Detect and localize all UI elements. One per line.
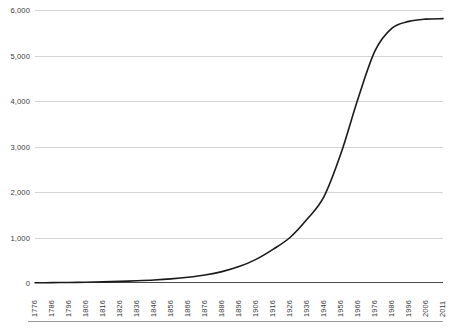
- x-tick-label: 1856: [166, 300, 175, 317]
- y-tick-label: 1,000: [10, 233, 30, 242]
- x-tick-label: 1966: [353, 300, 362, 317]
- x-tick-label: 1936: [302, 300, 311, 317]
- x-tick-label: 1916: [268, 300, 277, 317]
- x-tick-label: 2011: [438, 301, 447, 317]
- x-tick-label: 1836: [132, 300, 141, 317]
- x-tick-label: 1906: [251, 300, 260, 317]
- x-tick-label: 2006: [421, 300, 430, 317]
- y-tick-label: 0: [26, 279, 30, 288]
- x-tick-label: 1866: [183, 300, 192, 317]
- plot-area: [35, 10, 443, 283]
- x-tick-label: 1876: [200, 300, 209, 317]
- x-tick-label: 1976: [370, 300, 379, 317]
- chart-bottom-border: [28, 321, 443, 322]
- x-tick-label: 1796: [64, 300, 73, 317]
- y-axis-labels: 6,000 5,000 4,000 3,000 2,000 1,000 0: [0, 0, 33, 331]
- y-tick-label: 3,000: [10, 142, 30, 151]
- x-axis-labels: 1776178617961806181618261836184618561866…: [35, 285, 443, 317]
- chart-container: 6,000 5,000 4,000 3,000 2,000 1,000 0 17…: [0, 0, 458, 331]
- x-tick-label: 1786: [47, 300, 56, 317]
- x-tick-label: 1946: [319, 300, 328, 317]
- x-tick-label: 1886: [217, 300, 226, 317]
- x-tick-label: 1826: [115, 300, 124, 317]
- x-tick-label: 1926: [285, 300, 294, 317]
- series-path: [35, 19, 443, 283]
- series-line-chart: [35, 10, 443, 283]
- y-tick-label: 5,000: [10, 51, 30, 60]
- x-tick-label: 1896: [234, 300, 243, 317]
- x-tick-label: 1816: [98, 300, 107, 317]
- x-tick-label: 1806: [81, 300, 90, 317]
- x-tick-label: 1996: [404, 300, 413, 317]
- y-tick-label: 2,000: [10, 188, 30, 197]
- x-tick-label: 1956: [336, 300, 345, 317]
- y-tick-label: 4,000: [10, 97, 30, 106]
- x-tick-label: 1846: [149, 300, 158, 317]
- x-tick-label: 1776: [30, 300, 39, 317]
- y-tick-label: 6,000: [10, 6, 30, 15]
- x-tick-label: 1986: [387, 300, 396, 317]
